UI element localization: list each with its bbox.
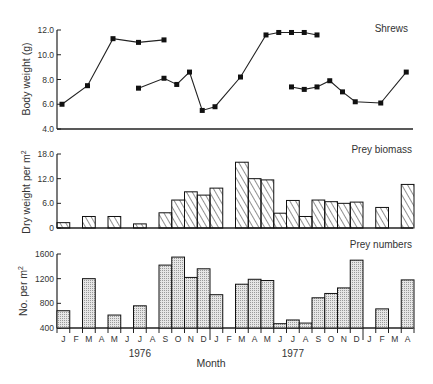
y-tick-label: 10.0	[37, 50, 54, 60]
prey-numbers-bars	[57, 257, 414, 328]
prey-number-bar	[350, 260, 363, 328]
y-tick-label: 1200	[35, 274, 54, 284]
y-tick-label: 12.0	[37, 174, 54, 184]
x-tick-label-month: A	[303, 334, 309, 344]
prey-number-bar	[338, 288, 351, 328]
biomass-bar	[108, 216, 121, 228]
x-tick-label-month: M	[238, 334, 245, 344]
data-point-marker	[276, 30, 281, 35]
y-tick-label: 6.0	[42, 198, 54, 208]
x-tick-label-month: O	[328, 334, 335, 344]
biomass-bar	[287, 200, 300, 228]
y-tick-label: 800	[40, 298, 54, 308]
prey-number-bar	[325, 293, 338, 328]
biomass-bar	[159, 213, 172, 228]
panel-title-shrews: Shrews	[375, 23, 408, 34]
biomass-bar	[299, 216, 312, 228]
data-point-marker	[174, 82, 179, 87]
data-point-marker	[315, 84, 320, 89]
biomass-bar	[248, 179, 261, 228]
data-point-marker	[353, 99, 358, 104]
panel-prey-biomass: Prey biomass 18.012.06.00 Dry weight per…	[20, 144, 414, 234]
x-tick-label-month: M	[264, 334, 271, 344]
y-axis-label-number: No. per m2	[17, 266, 29, 316]
body-weight-series	[139, 32, 318, 110]
x-axis-label-month: Month	[196, 357, 225, 369]
data-point-marker	[378, 101, 383, 106]
y-axis-label-body-weight: Body weight (g)	[20, 43, 32, 116]
data-point-marker	[187, 70, 192, 75]
data-point-marker	[289, 84, 294, 89]
x-tick-label-month: M	[391, 334, 398, 344]
x-tick-label-month: A	[150, 334, 156, 344]
biomass-bar	[401, 184, 414, 228]
x-tick-label-month: D	[354, 334, 360, 344]
x-axis-months: JFMAMJJASONDJFMAMJJASONDJFMA19761977	[57, 328, 414, 359]
data-point-marker	[315, 32, 320, 37]
x-tick-label-month: J	[125, 334, 129, 344]
x-tick-label-month: J	[291, 334, 295, 344]
y-tick-label: 0	[49, 223, 54, 233]
prey-number-bar	[248, 279, 261, 328]
data-point-marker	[162, 76, 167, 81]
prey-number-bar	[83, 279, 96, 328]
panel-title-prey-biomass: Prey biomass	[351, 144, 412, 155]
x-tick-label-month: J	[278, 334, 282, 344]
x-tick-label-month: A	[405, 334, 411, 344]
y-tick-label: 6.0	[42, 99, 54, 109]
x-tick-label-month: O	[175, 334, 182, 344]
y-tick-label: 18.0	[37, 149, 54, 159]
x-tick-label-month: A	[252, 334, 258, 344]
biomass-bar	[134, 224, 147, 228]
x-tick-label-month: J	[367, 334, 371, 344]
x-tick-label-month: A	[99, 334, 105, 344]
y-tick-label: 1600	[35, 249, 54, 259]
prey-number-bar	[108, 315, 121, 328]
data-point-marker	[327, 78, 332, 83]
prey-number-bar	[197, 269, 210, 328]
x-tick-label-month: S	[316, 334, 322, 344]
biomass-bar	[261, 180, 274, 228]
data-point-marker	[213, 104, 218, 109]
biomass-bar	[172, 200, 185, 228]
x-tick-label-month: S	[163, 334, 169, 344]
data-point-marker	[340, 89, 345, 94]
body-weight-series	[292, 72, 407, 103]
data-point-marker	[162, 37, 167, 42]
x-tick-label-month: F	[227, 334, 232, 344]
data-point-marker	[404, 70, 409, 75]
figure: Shrews 12.010.08.06.04.0 Body weight (g)…	[0, 0, 433, 384]
prey-number-bar	[287, 320, 300, 328]
prey-number-bar	[57, 311, 70, 328]
biomass-bar	[210, 188, 223, 228]
data-point-marker	[111, 36, 116, 41]
x-tick-label-month: F	[380, 334, 385, 344]
biomass-bar	[274, 213, 287, 228]
data-point-marker	[200, 108, 205, 113]
y-axis-body-weight: 12.010.08.06.04.0	[37, 25, 413, 134]
y-tick-label: 4.0	[42, 124, 54, 134]
x-tick-label-month: M	[85, 334, 92, 344]
data-point-marker	[136, 40, 141, 45]
prey-number-bar	[172, 257, 185, 328]
panel-prey-numbers: Prey numbers 16001200800400 No. per m2 J…	[17, 239, 414, 369]
x-tick-label-month: J	[61, 334, 65, 344]
biomass-bar	[185, 192, 198, 228]
x-tick-label-month: N	[188, 334, 194, 344]
data-point-marker	[238, 75, 243, 80]
prey-number-bar	[185, 277, 198, 328]
biomass-bar	[312, 200, 325, 228]
prey-number-bar	[274, 324, 287, 328]
data-point-marker	[289, 30, 294, 35]
x-tick-label-month: F	[74, 334, 79, 344]
biomass-bar	[325, 202, 338, 228]
prey-number-bar	[376, 309, 389, 328]
x-year-label: 1976	[129, 348, 152, 359]
body-weight-series	[62, 39, 164, 105]
prey-number-bar	[236, 284, 249, 328]
x-tick-label-month: D	[201, 334, 207, 344]
biomass-bar	[350, 202, 363, 228]
prey-number-bar	[312, 298, 325, 328]
biomass-bar	[197, 195, 210, 228]
prey-number-bar	[210, 295, 223, 328]
